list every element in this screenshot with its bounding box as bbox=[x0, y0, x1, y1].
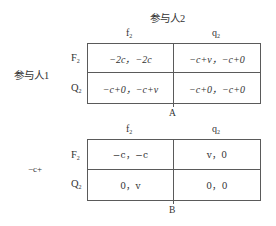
row-header-Q2: Q2 bbox=[71, 178, 82, 190]
side-label-b: −c+ bbox=[28, 164, 42, 174]
row-header-Q2: Q2 bbox=[71, 82, 82, 94]
cell-b-Q2-f2: 0，v bbox=[88, 170, 173, 200]
player-1-label: 参与人1 bbox=[14, 67, 49, 82]
column-header-sub: 2 bbox=[129, 33, 132, 39]
cell-a-Q2-q2: −c+0，−c+0 bbox=[174, 73, 260, 103]
column-header-sub: 2 bbox=[217, 129, 220, 135]
column-header-sub: 2 bbox=[129, 129, 132, 135]
cell-a-Q2-f2: −c+0，−c+v bbox=[88, 73, 173, 103]
row-header-main: Q bbox=[71, 82, 79, 93]
row-header-sub: 2 bbox=[77, 58, 80, 64]
row-header-main: Q bbox=[71, 178, 79, 189]
column-header-q2: q2 bbox=[212, 27, 220, 39]
cell-a-F2-q2: −c+v，−c+0 bbox=[174, 44, 260, 72]
cell-a-F2-f2: −2c，−2c bbox=[88, 44, 173, 72]
player-2-label: 参与人2 bbox=[150, 10, 185, 25]
cell-b-Q2-q2: 0，0 bbox=[174, 170, 260, 200]
column-header-f2: f2 bbox=[126, 123, 132, 135]
cell-b-F2-f2: −c，−c bbox=[88, 140, 173, 169]
row-header-F2: F2 bbox=[71, 149, 80, 161]
row-header-sub: 2 bbox=[77, 155, 80, 161]
row-header-sub: 2 bbox=[79, 88, 82, 94]
caption-a: A bbox=[169, 108, 176, 118]
row-header-sub: 2 bbox=[79, 184, 82, 190]
column-header-sub: 2 bbox=[217, 33, 220, 39]
caption-b: B bbox=[169, 205, 175, 215]
column-header-q2: q2 bbox=[212, 123, 220, 135]
row-header-F2: F2 bbox=[71, 52, 80, 64]
column-header-f2: f2 bbox=[126, 27, 132, 39]
cell-b-F2-q2: v，0 bbox=[174, 140, 260, 169]
tick-mark bbox=[173, 201, 174, 204]
tick-mark bbox=[173, 104, 174, 107]
